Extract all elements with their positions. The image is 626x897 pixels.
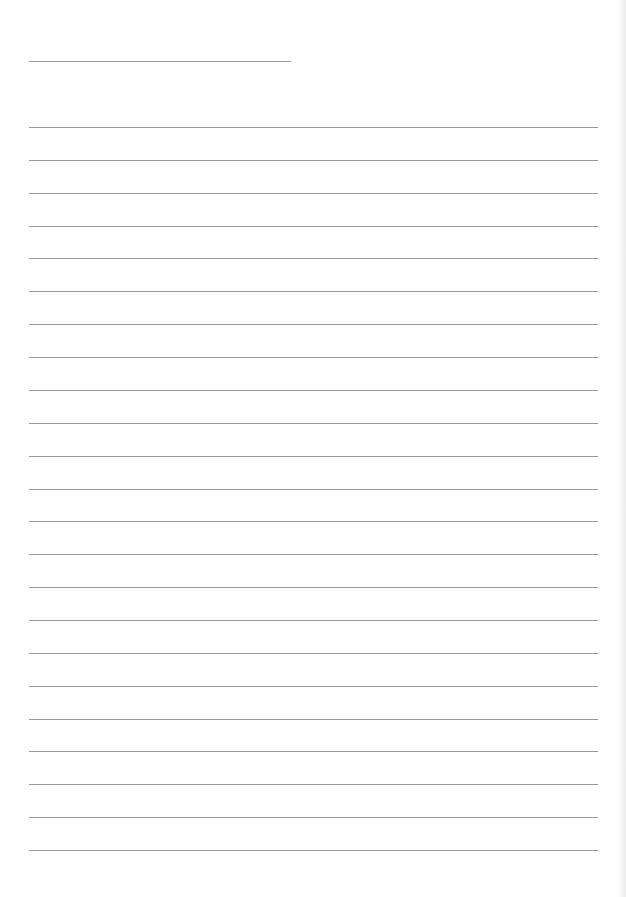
title-underline <box>29 61 291 62</box>
ruled-line <box>29 226 598 227</box>
ruled-line <box>29 817 598 818</box>
lined-paper-page <box>0 0 626 897</box>
ruled-line <box>29 127 598 128</box>
ruled-line <box>29 324 598 325</box>
ruled-line <box>29 423 598 424</box>
ruled-line <box>29 521 598 522</box>
ruled-line <box>29 554 598 555</box>
ruled-line <box>29 258 598 259</box>
ruled-line <box>29 850 598 851</box>
ruled-line <box>29 456 598 457</box>
ruled-line <box>29 620 598 621</box>
ruled-line <box>29 357 598 358</box>
ruled-line <box>29 587 598 588</box>
ruled-line <box>29 784 598 785</box>
ruled-line <box>29 653 598 654</box>
ruled-line <box>29 193 598 194</box>
page-edge-shadow <box>618 0 626 897</box>
ruled-line <box>29 686 598 687</box>
ruled-line <box>29 719 598 720</box>
ruled-line <box>29 390 598 391</box>
ruled-line <box>29 160 598 161</box>
ruled-line <box>29 751 598 752</box>
ruled-line <box>29 291 598 292</box>
ruled-line <box>29 489 598 490</box>
